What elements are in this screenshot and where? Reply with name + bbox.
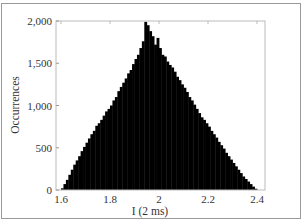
histogram-bar <box>230 160 233 190</box>
x-tick-label: 2 <box>156 193 162 205</box>
histogram-bar <box>184 88 187 190</box>
histogram-bar <box>250 184 253 190</box>
y-tick-label: 0 <box>47 184 53 196</box>
histogram-bar <box>147 25 150 190</box>
histogram-bar <box>233 163 236 190</box>
histogram-bar <box>210 131 213 190</box>
histogram-bar <box>235 166 238 190</box>
histogram-bar <box>181 84 184 190</box>
histogram-bar <box>166 62 169 190</box>
histogram-bar <box>176 77 179 190</box>
histogram-bar <box>159 48 162 190</box>
histogram-bar <box>100 120 103 190</box>
histogram-bar <box>139 48 142 190</box>
histogram-bar <box>186 92 189 190</box>
histogram-bar <box>191 100 194 190</box>
histogram-bar <box>164 56 167 190</box>
histogram-bar <box>95 126 98 190</box>
histogram-bar <box>108 109 111 190</box>
histogram-bar <box>88 138 91 190</box>
histogram-bar <box>218 142 221 190</box>
x-axis-label: I (2 ms) <box>132 205 169 218</box>
histogram-bars <box>61 22 257 190</box>
histogram-bar <box>63 184 66 190</box>
histogram-bar <box>73 165 76 190</box>
x-tick-label: 2.4 <box>250 193 264 205</box>
x-tick-label: 1.6 <box>54 193 68 205</box>
histogram-bar <box>237 170 240 190</box>
histogram-bar <box>98 123 101 190</box>
x-tick-label: 2.2 <box>201 193 215 205</box>
histogram-bar <box>169 65 172 190</box>
histogram-bar <box>103 116 106 190</box>
histogram-bar <box>223 149 226 190</box>
histogram-bar <box>203 120 206 190</box>
histogram-bar <box>152 36 155 190</box>
histogram-bar <box>105 111 108 190</box>
histogram-bar <box>201 117 204 190</box>
histogram-bar <box>198 113 201 190</box>
histogram-bar <box>225 153 228 190</box>
histogram-bar <box>206 123 209 190</box>
histogram-bar <box>179 80 182 190</box>
x-tick-label: 1.8 <box>103 193 117 205</box>
histogram-bar <box>196 109 199 190</box>
histogram-bar <box>122 83 125 190</box>
histogram-bar <box>76 160 79 190</box>
histogram-bar <box>228 156 231 190</box>
histogram-bar <box>83 147 86 190</box>
y-axis: 05001,0001,5002,000 <box>27 15 59 196</box>
y-tick-label: 1,000 <box>27 100 52 112</box>
histogram-bar <box>66 180 69 190</box>
histogram-bar <box>112 100 115 190</box>
histogram-bar <box>127 73 130 190</box>
histogram-chart: 05001,0001,5002,000 1.61.822.22.4 I (2 m… <box>0 0 305 222</box>
histogram-bar <box>132 64 135 190</box>
histogram-bar <box>125 78 128 190</box>
histogram-bar <box>252 187 255 190</box>
histogram-bar <box>240 173 243 190</box>
histogram-bar <box>90 134 93 190</box>
histogram-bar <box>215 138 218 190</box>
histogram-bar <box>130 70 133 190</box>
histogram-bar <box>110 106 113 191</box>
histogram-bar <box>115 97 118 190</box>
y-tick-label: 500 <box>36 142 53 154</box>
histogram-bar <box>193 105 196 190</box>
histogram-bar <box>78 156 81 190</box>
histogram-bar <box>171 67 174 190</box>
histogram-bar <box>135 59 138 190</box>
histogram-bar <box>208 127 211 190</box>
histogram-bar <box>157 38 160 190</box>
histogram-bar <box>71 170 74 190</box>
histogram-bar <box>137 55 140 190</box>
histogram-bar <box>247 182 250 190</box>
y-axis-label: Occurrences <box>9 76 21 134</box>
y-tick-label: 1,500 <box>27 57 52 69</box>
histogram-bar <box>174 72 177 190</box>
histogram-bar <box>142 41 145 190</box>
histogram-bar <box>149 31 152 190</box>
histogram-bar <box>220 145 223 190</box>
histogram-bar <box>144 22 147 190</box>
histogram-bar <box>242 176 245 190</box>
histogram-bar <box>81 151 84 190</box>
histogram-bar <box>117 91 120 190</box>
histogram-bar <box>93 131 96 190</box>
histogram-bar <box>120 87 123 190</box>
histogram-bar <box>68 175 71 190</box>
histogram-bar <box>188 97 191 190</box>
histogram-bar <box>245 179 248 190</box>
histogram-bar <box>86 143 89 190</box>
histogram-bar <box>154 45 157 190</box>
histogram-bar <box>213 134 216 190</box>
y-tick-label: 2,000 <box>27 15 52 27</box>
histogram-bar <box>161 55 164 190</box>
